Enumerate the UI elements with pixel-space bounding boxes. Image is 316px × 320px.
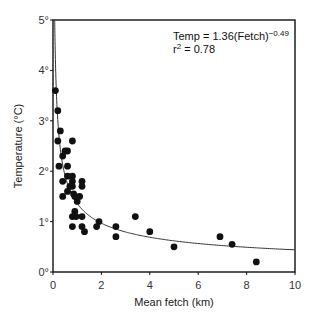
r-squared: r2 = 0.78 [173,43,215,55]
data-point [113,233,120,240]
data-point [229,241,236,248]
data-point [79,213,86,220]
x-tick-label: 4 [147,279,153,291]
y-tick-label: 2° [38,165,49,177]
data-point [113,223,120,230]
data-point [54,107,61,114]
data-point [56,163,63,170]
data-point [57,127,64,134]
y-tick-label: 4° [38,64,49,76]
data-point [79,183,86,190]
data-point [74,198,81,205]
x-axis-title: Mean fetch (km) [134,296,213,308]
r-squared-value: = 0.78 [181,43,215,55]
data-point [69,183,76,190]
data-point [171,243,178,250]
x-tick-label: 0 [50,279,56,291]
equation-exponent: −0.49 [269,29,289,38]
axis-ticks: 02468100°1°2°3°4°5° [38,14,301,291]
x-tick-label: 10 [289,279,301,291]
data-point [64,188,71,195]
data-point [146,228,153,235]
data-point [253,259,260,266]
data-point [96,218,103,225]
fit-equation: Temp = 1.36(Fetch)−0.49 [173,30,289,42]
y-tick-label: 1° [38,216,49,228]
data-point [81,228,88,235]
scatter-chart: 02468100°1°2°3°4°5° Mean fetch (km) Temp… [0,0,316,320]
x-tick-label: 8 [244,279,250,291]
plot-border [53,20,295,272]
y-tick-label: 5° [38,14,49,26]
data-point [132,213,139,220]
plot-frame [53,20,295,272]
data-point [69,138,76,145]
equation-text: Temp = 1.36(Fetch) [173,30,269,42]
x-tick-label: 2 [98,279,104,291]
x-tick-label: 6 [195,279,201,291]
data-point [64,148,71,155]
data-point [73,213,80,220]
data-point [69,173,76,180]
data-point [64,163,71,170]
y-tick-label: 3° [38,115,49,127]
data-point [217,233,224,240]
y-tick-label: 0° [38,266,49,278]
y-axis-title: Temperature (°C) [12,104,24,188]
data-point [59,193,66,200]
data-point [69,223,76,230]
data-point [59,178,66,185]
data-point [52,87,59,94]
data-point [54,138,61,145]
